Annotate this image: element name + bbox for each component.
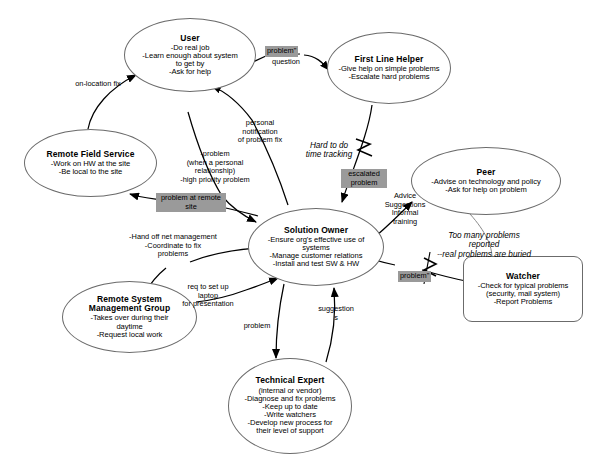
edge-label-suggestions: suggestion s [310,305,362,322]
edge-label-problem-question-sub: question [264,58,308,67]
node-solution-owner-lines: -Ensure org's effective use of systems -… [268,236,364,269]
edge-label-problem-question-highlight: problem" [265,46,298,57]
edge-label-hand-off-net-management: -Hand off net management -Coordinate to … [117,233,229,259]
node-user-lines: -Do real job -Learn enough about system … [142,44,237,77]
node-remote-system-management-group-lines: -Takes over during their daytime -Reques… [90,314,168,339]
edge-label-escalated-problem: escalated problem [341,169,387,188]
node-peer-title: Peer [477,168,496,177]
edge-solution-owner-to-technical-expert [276,284,284,358]
node-remote-field-service-lines: -Work on HW at the site -Be local to the… [51,160,130,176]
node-user[interactable]: User -Do real job -Learn enough about sy… [124,18,256,92]
node-remote-system-management-group-title: Remote System Management Group [89,295,170,313]
edge-technical-expert-to-solution-owner [326,288,335,362]
edge-label-advice-suggestions-informal-training: Advice Suggestions Informal training [381,192,429,226]
edge-solution-owner-to-user [212,86,252,120]
node-first-line-helper-lines: -Give help on simple problems -Escalate … [338,65,439,81]
node-user-title: User [180,34,199,43]
edge-label-too-many-problems: Too many problems reported --real proble… [404,231,564,259]
node-peer[interactable]: Peer -Advise on technology and policy -A… [411,147,561,215]
edge-label-on-location-fix: on-location fix [60,80,136,89]
node-technical-expert-lines: (internal or vendor) -Diagnose and fix p… [244,387,335,436]
edge-label-problem-watcher: problem" [398,271,431,282]
node-first-line-helper[interactable]: First Line Helper -Give help on simple p… [327,32,451,104]
edge-label-req-to-set-up-laptop: req to set up laptop for presentation [173,283,243,309]
node-first-line-helper-title: First Line Helper [355,55,424,64]
node-technical-expert-title: Technical Expert [256,376,325,385]
node-watcher-lines: -Check for typical problems (security, m… [478,282,569,307]
edge-label-hard-to-do-time-tracking: Hard to do time tracking [297,141,361,160]
node-solution-owner[interactable]: Solution Owner -Ensure org's effective u… [248,208,384,286]
node-remote-field-service[interactable]: Remote Field Service -Work on HW at the … [24,129,157,197]
edge-label-problem-technical-expert: problem [232,322,282,331]
node-watcher[interactable]: Watcher -Check for typical problems (sec… [463,256,583,322]
edge-user-to-solution-owner [222,196,256,222]
node-peer-lines: -Advise on technology and policy -Ask fo… [431,178,540,194]
node-solution-owner-title: Solution Owner [284,226,348,235]
node-watcher-title: Watcher [506,272,540,281]
edge-label-problem-personal-relationship: -problem (when a personal relationship) … [166,150,264,184]
edge-remote-system-management-group-to-solution-owner [246,278,278,290]
diagram-canvas: User -Do real job -Learn enough about sy… [0,0,602,463]
edge-label-personal-notification: personal notification of problem fix [224,119,296,145]
edge-label-problem-at-remote-site: problem at remote site [156,193,226,212]
node-remote-field-service-title: Remote Field Service [47,150,135,159]
node-technical-expert[interactable]: Technical Expert (internal or vendor) -D… [228,358,352,454]
